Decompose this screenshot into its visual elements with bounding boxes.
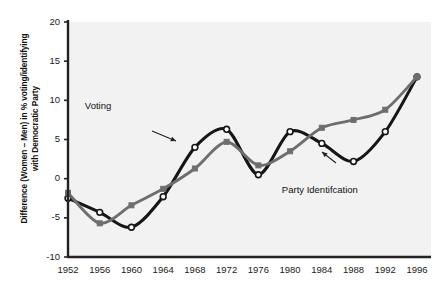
x-tick-label: 1956 xyxy=(83,264,117,275)
data-point-marker xyxy=(415,74,420,79)
y-tick-label: -10 xyxy=(30,251,60,262)
data-point-marker xyxy=(160,194,166,200)
x-tick-label: 1980 xyxy=(273,264,307,275)
x-tick-label: 1968 xyxy=(178,264,212,275)
data-point-marker xyxy=(224,139,229,144)
data-point-marker xyxy=(255,172,261,178)
y-tick-label: 5 xyxy=(30,133,60,144)
chart-figure: Difference (Women – Men) in % voting/ide… xyxy=(0,0,440,298)
data-point-marker xyxy=(97,209,103,215)
data-point-marker xyxy=(383,107,388,112)
plot-canvas xyxy=(0,0,440,298)
data-point-marker xyxy=(287,129,293,135)
data-point-marker xyxy=(97,221,102,226)
x-tick-label: 1984 xyxy=(305,264,339,275)
y-tick-label: 10 xyxy=(30,94,60,105)
data-point-marker xyxy=(319,141,325,147)
data-point-marker xyxy=(192,166,197,171)
data-point-marker xyxy=(288,149,293,154)
x-tick-label: 1960 xyxy=(114,264,148,275)
data-point-marker xyxy=(129,203,134,208)
x-tick-label: 1952 xyxy=(51,264,85,275)
data-point-marker xyxy=(192,144,198,150)
data-point-marker xyxy=(129,224,135,230)
data-point-marker xyxy=(351,117,356,122)
data-point-marker xyxy=(319,125,324,130)
x-tick-label: 1992 xyxy=(368,264,402,275)
y-tick-label: 20 xyxy=(30,16,60,27)
data-point-marker xyxy=(351,159,357,165)
x-tick-label: 1964 xyxy=(146,264,180,275)
x-tick-label: 1988 xyxy=(337,264,371,275)
data-point-marker xyxy=(224,126,230,132)
y-tick-label: -5 xyxy=(30,211,60,222)
x-tick-label: 1996 xyxy=(400,264,434,275)
x-tick-label: 1976 xyxy=(241,264,275,275)
y-tick-label: 0 xyxy=(30,172,60,183)
voting-series-label: Voting xyxy=(85,100,111,111)
data-point-marker xyxy=(161,186,166,191)
data-point-marker xyxy=(382,129,388,135)
x-tick-label: 1972 xyxy=(210,264,244,275)
party-identification-series-label: Party Identifcation xyxy=(282,184,358,195)
y-tick-label: 15 xyxy=(30,55,60,66)
data-point-marker xyxy=(256,163,261,168)
plot-background xyxy=(68,22,431,257)
